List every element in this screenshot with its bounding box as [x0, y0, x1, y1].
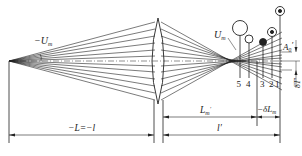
object-distance-label: −L=−l: [68, 123, 96, 133]
spot-3-filled-dot: [260, 39, 267, 46]
arrowhead: [295, 70, 298, 75]
arrowhead: [251, 116, 257, 119]
spherical-aberration-diagram: −Um Um A0′ δT′ 5 4 3 2 1 −L=−l Lm′ −δLm …: [0, 0, 302, 156]
paraxial-distance-label: l′: [217, 123, 223, 133]
arrowhead: [163, 134, 169, 137]
marginal-image-distance-label: Lm′: [199, 105, 212, 116]
spot-1-dot: [278, 9, 281, 12]
arrow-right-head: [148, 134, 154, 137]
spot-4-small-circle: [245, 35, 253, 43]
spot-5-number: 5: [237, 79, 242, 89]
arrow-left-head: [9, 134, 15, 137]
arrowhead: [257, 116, 262, 119]
arrowhead: [275, 116, 280, 119]
spot-4-number: 4: [246, 79, 251, 89]
arrowhead: [295, 47, 298, 52]
neg-u-m-label: −Um: [34, 35, 53, 47]
arrowhead: [274, 134, 280, 137]
spot-2-number: 2: [269, 79, 274, 89]
u-m-label: Um: [214, 29, 226, 41]
arrowhead: [163, 116, 169, 119]
a0-prime-label: A0′: [282, 40, 294, 53]
spot-1-number: 1: [275, 79, 280, 89]
u-m-leader: [228, 38, 236, 50]
spot-5-large-circle: [233, 21, 248, 36]
longitudinal-aberration-label: −δLm: [257, 104, 276, 115]
spot-2-dot: [270, 30, 273, 33]
spot-3-number: 3: [260, 79, 265, 89]
delta-t-label: δT′: [293, 78, 302, 88]
